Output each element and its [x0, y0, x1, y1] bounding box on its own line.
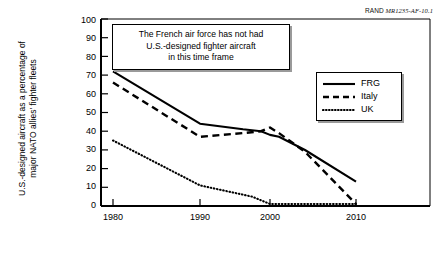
annotation-line-1: The French air force has not had	[117, 29, 285, 41]
annotation-line-3: in this time frame	[117, 52, 285, 64]
chart-figure: RAND MR1235-AF-10.1 U.S.-designed aircra…	[0, 0, 439, 255]
legend-item-italy: Italy	[322, 90, 396, 103]
legend-key-dashed-icon	[322, 92, 356, 102]
legend-label-uk: UK	[361, 105, 374, 114]
chart-legend: FRG Italy UK	[316, 72, 402, 121]
y-tick-marks	[101, 19, 108, 206]
legend-key-dotted-icon	[322, 105, 356, 115]
chart-annotation: The French air force has not had U.S.-de…	[112, 24, 290, 70]
annotation-line-2: U.S.-designed fighter aircraft	[117, 41, 285, 53]
legend-label-frg: FRG	[361, 79, 380, 88]
legend-item-frg: FRG	[322, 77, 396, 90]
series-line-uk	[113, 141, 356, 205]
legend-key-solid-icon	[322, 79, 356, 89]
legend-label-italy: Italy	[361, 92, 378, 101]
x-tick-marks	[113, 199, 356, 206]
legend-item-uk: UK	[322, 103, 396, 116]
